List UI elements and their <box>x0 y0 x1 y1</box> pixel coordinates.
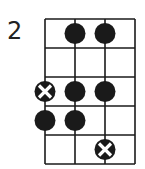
finger-dot <box>65 110 86 131</box>
finger-dot <box>65 23 86 44</box>
finger-dot <box>65 81 86 102</box>
finger-dot <box>95 23 116 44</box>
fretboard-grid <box>0 0 145 169</box>
finger-dot <box>35 110 56 131</box>
finger-dot <box>95 81 116 102</box>
